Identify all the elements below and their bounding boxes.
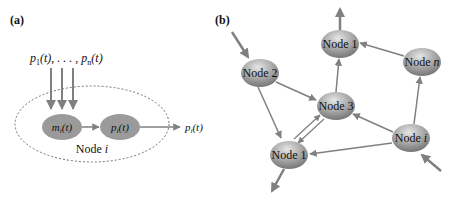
- svg-text:Node i: Node i: [395, 131, 427, 145]
- panel-b: (b): [215, 9, 441, 191]
- edge-external-to-nodei: [422, 155, 441, 171]
- edge-node2-to-node3: [276, 82, 316, 100]
- panel-b-label: (b): [215, 13, 230, 27]
- svg-text:Node 2: Node 2: [243, 66, 278, 80]
- inputs-label: p1(t), . . . , pn(t): [29, 51, 103, 67]
- node-2: Node 2: [241, 59, 279, 87]
- edge-nodei-to-node1-bottom: [310, 143, 392, 154]
- panel-a-label: (a): [10, 13, 24, 27]
- diagram-canvas: (a) p1(t), . . . , pn(t) mi(t) pi(t) pi(…: [0, 0, 455, 201]
- output-label: pi(t): [184, 121, 203, 135]
- edge-noden-to-node1-top: [360, 43, 404, 56]
- svg-text:Node 1: Node 1: [272, 148, 307, 162]
- p-i-label: pi(t): [110, 121, 129, 135]
- panel-a: (a) p1(t), . . . , pn(t) mi(t) pi(t) pi(…: [10, 13, 203, 162]
- edge-nodei-to-node3: [353, 114, 393, 132]
- container-label: Node i: [76, 142, 108, 156]
- edge-external-to-node2: [232, 32, 248, 57]
- svg-text:Node n: Node n: [405, 55, 440, 69]
- node-i: Node i: [392, 124, 430, 152]
- node-1-bottom: Node 1: [270, 141, 308, 169]
- node-3: Node 3: [317, 92, 355, 120]
- svg-text:Node 3: Node 3: [319, 99, 354, 113]
- edge-nodei-to-noden: [414, 77, 420, 124]
- m-i-label: mi(t): [52, 121, 73, 135]
- edge-node3-to-node1-top: [336, 59, 339, 92]
- svg-text:Node 1: Node 1: [323, 37, 358, 51]
- edge-node2-to-node1-bottom: [258, 87, 281, 138]
- edge-node1-bottom-to-external: [272, 169, 284, 191]
- node-n: Node n: [403, 48, 441, 76]
- node-1-top: Node 1: [321, 30, 359, 58]
